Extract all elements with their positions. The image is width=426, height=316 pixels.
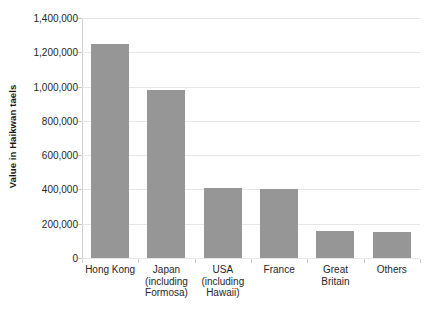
y-tick-mark: [78, 121, 82, 122]
y-tick-mark: [78, 224, 82, 225]
x-category-label: USA(includingHawaii): [195, 264, 251, 299]
x-tick-mark: [138, 259, 139, 263]
bar[interactable]: [316, 231, 354, 258]
x-category-label: France: [251, 264, 307, 276]
x-category-label-line: Japan: [138, 264, 194, 276]
y-tick-label: 0: [22, 253, 78, 264]
bar-slot: [364, 18, 420, 258]
x-category-label-line: Great: [307, 264, 363, 276]
x-category-label-line: (including: [138, 276, 194, 288]
y-tick-mark: [78, 189, 82, 190]
bar[interactable]: [260, 189, 298, 258]
y-tick-label: 1,200,000: [22, 47, 78, 58]
x-category-label-line: (including: [195, 276, 251, 288]
x-tick-mark: [195, 259, 196, 263]
x-category-label-line: USA: [195, 264, 251, 276]
y-tick-mark: [78, 52, 82, 53]
y-axis-title-text: Value in Haikwan taels: [8, 84, 19, 188]
x-category-label-line: Britain: [307, 276, 363, 288]
x-tick-mark: [82, 259, 83, 263]
x-category-label: GreatBritain: [307, 264, 363, 287]
x-tick-mark: [307, 259, 308, 263]
bar-slot: [138, 18, 194, 258]
x-category-label: Others: [364, 264, 420, 276]
y-tick-label: 1,000,000: [22, 81, 78, 92]
bar[interactable]: [373, 232, 411, 258]
x-tick-mark: [251, 259, 252, 263]
bar[interactable]: [204, 188, 242, 258]
bar[interactable]: [91, 44, 129, 258]
x-category-label-line: France: [251, 264, 307, 276]
x-category-label: Hong Kong: [82, 264, 138, 276]
y-tick-label: 200,000: [22, 218, 78, 229]
x-category-label-line: Hawaii): [195, 287, 251, 299]
y-axis-tick-labels: 0200,000400,000600,000800,0001,000,0001,…: [22, 18, 78, 258]
x-category-label-line: Formosa): [138, 287, 194, 299]
bar-chart: Value in Haikwan taels 0200,000400,00060…: [0, 0, 426, 316]
bars-layer: [82, 18, 420, 258]
bar-slot: [82, 18, 138, 258]
y-tick-mark: [78, 87, 82, 88]
x-tick-mark: [420, 259, 421, 263]
x-tick-mark: [364, 259, 365, 263]
x-axis-category-labels: Hong KongJapan(includingFormosa)USA(incl…: [82, 264, 420, 314]
bar-slot: [195, 18, 251, 258]
bar-slot: [307, 18, 363, 258]
y-tick-mark: [78, 18, 82, 19]
y-tick-label: 800,000: [22, 115, 78, 126]
x-category-label-line: Others: [364, 264, 420, 276]
y-tick-label: 1,400,000: [22, 13, 78, 24]
y-tick-label: 600,000: [22, 150, 78, 161]
y-tick-label: 400,000: [22, 184, 78, 195]
y-tick-mark: [78, 155, 82, 156]
bar-slot: [251, 18, 307, 258]
x-category-label-line: Hong Kong: [82, 264, 138, 276]
bar[interactable]: [147, 90, 185, 258]
x-category-label: Japan(includingFormosa): [138, 264, 194, 299]
